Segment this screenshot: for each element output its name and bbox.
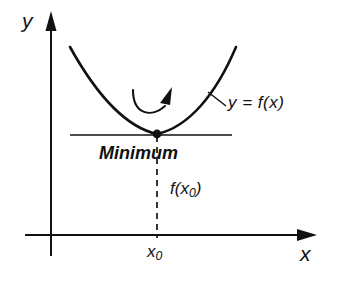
concavity-arrow-icon [133, 87, 172, 113]
y-axis-label: y [22, 10, 33, 31]
x-axis-label: x [300, 243, 311, 264]
x0-subscript: 0 [156, 249, 163, 263]
function-value-label: f(x0) [170, 180, 201, 200]
function-value-prefix: f(x [170, 179, 189, 198]
curve-label: y = f(x) [228, 94, 284, 111]
x0-prefix: x [147, 242, 156, 261]
y-axis [46, 11, 57, 256]
x-axis [25, 229, 317, 241]
minimum-point-dot [153, 130, 162, 139]
function-value-subscript: 0 [189, 186, 196, 200]
minimum-of-function-diagram: y x y = f(x) Minimum f(x0) x0 [0, 0, 339, 288]
function-curve [70, 47, 236, 134]
leader-line [208, 92, 226, 106]
minimum-label: Minimum [99, 144, 178, 162]
function-value-suffix: ) [196, 179, 202, 198]
x0-label: x0 [147, 243, 162, 263]
